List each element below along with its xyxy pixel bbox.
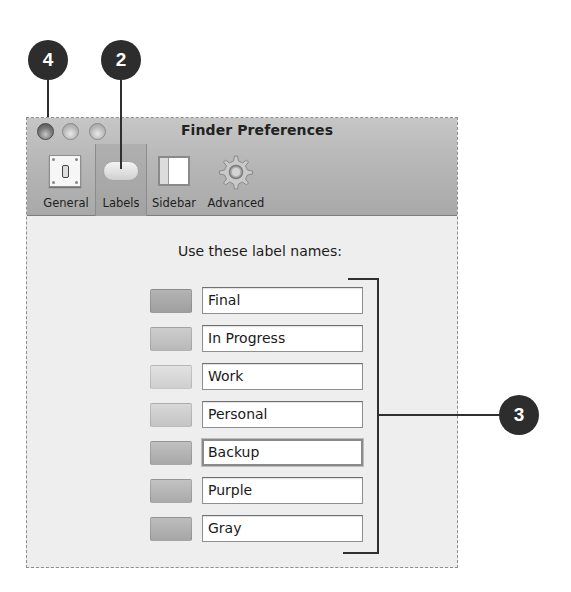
- toolbar-general-label: General: [37, 196, 95, 210]
- label-name-field-focused[interactable]: Backup: [202, 439, 363, 466]
- toolbar-labels-label: Labels: [96, 196, 146, 210]
- label-color-swatch: [150, 289, 192, 313]
- gear-icon: [218, 154, 254, 190]
- window-title: Finder Preferences: [27, 122, 457, 138]
- bracket-vertical: [377, 278, 379, 554]
- callout-4: 4: [28, 40, 68, 80]
- callout-2: 2: [101, 40, 141, 80]
- label-color-swatch: [150, 517, 192, 541]
- label-names-heading: Use these label names:: [27, 243, 457, 259]
- label-name-field[interactable]: Final: [202, 287, 363, 314]
- label-color-swatch: [150, 441, 192, 465]
- toolbar-sidebar[interactable]: Sidebar: [148, 144, 200, 216]
- bracket-bottom: [343, 552, 379, 554]
- label-color-swatch: [150, 365, 192, 389]
- toolbar-general[interactable]: General: [37, 144, 95, 216]
- label-name-field[interactable]: In Progress: [202, 325, 363, 352]
- titlebar-toolbar: Finder Preferences General Labels Sideba…: [27, 118, 457, 216]
- label-name-field[interactable]: Work: [202, 363, 363, 390]
- label-color-swatch: [150, 479, 192, 503]
- sidebar-icon: [158, 156, 190, 186]
- toolbar-sidebar-label: Sidebar: [148, 196, 200, 210]
- label-color-swatch: [150, 403, 192, 427]
- callout-2-leader-line: [120, 79, 122, 169]
- toolbar-advanced-label: Advanced: [201, 196, 271, 210]
- label-color-swatch: [150, 327, 192, 351]
- callout-3-leader-line: [378, 414, 502, 416]
- bracket-top: [348, 278, 379, 280]
- light-switch-icon: [49, 155, 81, 187]
- label-name-field[interactable]: Purple: [202, 477, 363, 504]
- label-name-field[interactable]: Gray: [202, 515, 363, 542]
- finder-preferences-window: Finder Preferences General Labels Sideba…: [26, 117, 458, 568]
- toolbar-advanced[interactable]: Advanced: [201, 144, 271, 216]
- label-name-field[interactable]: Personal: [202, 401, 363, 428]
- callout-3: 3: [499, 395, 539, 435]
